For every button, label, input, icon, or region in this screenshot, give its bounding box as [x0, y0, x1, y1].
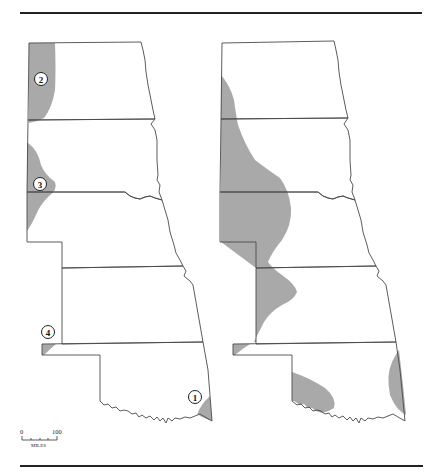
label-2-text: 2 [39, 75, 44, 85]
label-marker-3: 3 [34, 178, 47, 191]
shaded-region-south-central-ok [292, 372, 335, 413]
right-state-border-oklahoma [233, 342, 405, 423]
state-border-oklahoma [42, 342, 212, 423]
label-marker-4: 4 [42, 326, 55, 339]
shaded-region-ok-panhandle [42, 344, 56, 355]
state-border-nebraska [27, 192, 183, 268]
scale-unit-label: MILES [31, 443, 46, 448]
label-marker-1: 1 [189, 391, 202, 404]
state-border-kansas [62, 266, 203, 344]
label-3-text: 3 [38, 180, 43, 190]
scale-end-label: 100 [52, 428, 62, 435]
right-map [220, 41, 406, 423]
right-state-border-north-dakota [221, 41, 348, 119]
label-marker-2: 2 [35, 73, 48, 86]
figure-canvas: 1 2 3 4 0 100 MILES [0, 0, 433, 476]
scale-start-label: 0 [20, 428, 23, 435]
left-map: 1 2 3 4 0 100 MILES [20, 42, 212, 448]
shaded-region-right-ok-panhandle [233, 344, 250, 355]
label-1-text: 1 [193, 393, 198, 403]
shaded-region-western-band [221, 75, 297, 342]
label-4-text: 4 [46, 328, 51, 338]
scale-bar: 0 100 MILES [20, 428, 62, 448]
